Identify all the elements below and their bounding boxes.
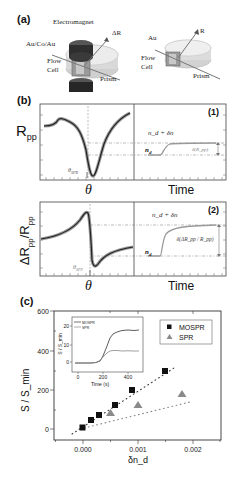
inset-y-tick-0: 0 — [66, 359, 69, 365]
y-tick-200: 200 — [37, 387, 49, 394]
inset-y-tick-20: 20 — [63, 323, 69, 329]
inset-legend-mospr: MOSPR — [82, 321, 95, 325]
y-tick-400: 400 — [37, 348, 49, 355]
c-ylabel: S / S_min — [20, 368, 31, 411]
inset-x-tick-200: 200 — [99, 374, 108, 380]
inset-ylabel: S / S_min — [57, 333, 63, 355]
y-tick-600: 600 — [37, 308, 49, 315]
inset-x-tick-400: 400 — [124, 374, 133, 380]
inset-x-tick-0: 0 — [77, 374, 80, 380]
panel-c-chart: 600 400 200 0 0.000 0.001 0.002 MOSPR SP… — [0, 0, 238, 480]
inset-legend-spr: SPR — [82, 326, 90, 330]
x-tick-0000: 0.000 — [74, 446, 92, 453]
y-tick-0: 0 — [45, 426, 49, 433]
x-tick-0001: 0.001 — [129, 446, 147, 453]
inset-xlabel: Time (s) — [91, 381, 109, 387]
legend-spr: SPR — [179, 334, 193, 341]
c-xlabel: δn_d — [128, 455, 148, 465]
inset-y-tick-10: 10 — [63, 342, 69, 348]
legend-mospr: MOSPR — [179, 324, 205, 331]
x-tick-0002: 0.002 — [184, 446, 202, 453]
